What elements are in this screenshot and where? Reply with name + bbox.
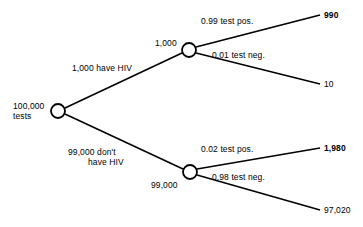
branch-label-test-pos-upper: 0.99 test pos. xyxy=(201,16,253,26)
node-hiv-negative-label: 99,000 xyxy=(151,180,178,190)
outcome-false-negative: 10 xyxy=(324,79,334,89)
node-root-label-line2: tests xyxy=(13,111,31,121)
node-hiv-positive xyxy=(182,43,196,57)
node-root xyxy=(51,104,65,118)
node-root-label-line1: 100,000 xyxy=(13,101,44,111)
branch-label-test-pos-lower: 0.02 test pos. xyxy=(201,144,253,154)
edge-root-to-hiv-negative xyxy=(65,114,183,169)
outcome-true-negative: 97,020 xyxy=(324,205,351,215)
edge-root-to-hiv-positive xyxy=(65,53,182,108)
branch-label-have-hiv: 1,000 have HIV xyxy=(72,63,132,73)
branch-label-dont-have-hiv-line1: 99,000 don't xyxy=(68,147,116,157)
branch-label-test-neg-lower: 0.98 test neg. xyxy=(212,172,265,182)
probability-tree-diagram: 100,000 tests 1,000 have HIV 1,000 0.99 … xyxy=(0,0,363,227)
branch-label-dont-have-hiv-line2: have HIV xyxy=(88,157,124,167)
outcome-true-positive: 990 xyxy=(324,10,338,20)
branch-label-test-neg-upper: 0.01 test neg. xyxy=(212,50,265,60)
outcome-false-positive: 1,980 xyxy=(324,143,346,153)
node-hiv-negative xyxy=(183,165,197,179)
tree-graphics xyxy=(0,0,363,227)
node-hiv-positive-label: 1,000 xyxy=(155,38,177,48)
